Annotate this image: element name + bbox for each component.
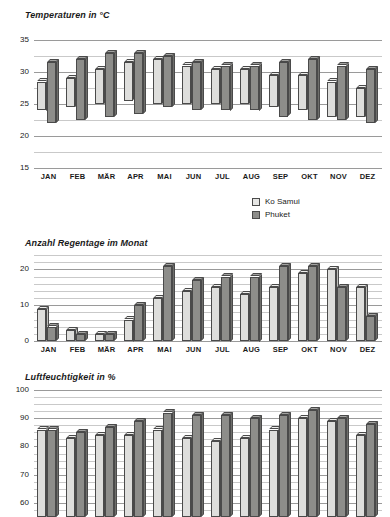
temperature-ytick: 30 bbox=[3, 67, 29, 76]
temperature-bar-ko-samui bbox=[269, 75, 278, 107]
humidity-title: Luftfeuchtigkeit in % bbox=[25, 372, 116, 382]
rain_days-bar-phuket bbox=[76, 334, 85, 341]
rain_days-bar-ko-samui bbox=[124, 320, 133, 342]
humidity-bar-phuket bbox=[105, 427, 114, 517]
rain_days-bar-phuket bbox=[192, 280, 201, 341]
rain_days-bar-ko-samui bbox=[269, 287, 278, 341]
rain_days-bar-phuket bbox=[105, 334, 114, 341]
humidity-bar-ko-samui bbox=[298, 418, 307, 517]
temperature-bar-ko-samui bbox=[153, 59, 162, 104]
rain_days-bar-phuket bbox=[134, 305, 143, 341]
humidity-bar-phuket bbox=[221, 415, 230, 517]
temperature-ytick: 25 bbox=[3, 99, 29, 108]
humidity-bar-phuket bbox=[337, 418, 346, 517]
humidity-bar-phuket bbox=[250, 418, 259, 517]
rain_days-bar-ko-samui bbox=[95, 334, 104, 341]
temperature-bar-phuket bbox=[308, 59, 317, 120]
gridline bbox=[34, 40, 382, 41]
humidity-bar-ko-samui bbox=[182, 438, 191, 517]
temperature-ytick: 15 bbox=[3, 163, 29, 172]
humidity-bar-ko-samui bbox=[124, 435, 133, 517]
humidity-ytick: 70 bbox=[3, 470, 29, 479]
rain_days-bar-phuket bbox=[308, 266, 317, 341]
rain_days-bar-ko-samui bbox=[182, 291, 191, 341]
temperature-bar-phuket bbox=[192, 62, 201, 110]
legend-swatch-phuket bbox=[252, 211, 260, 219]
rain_days-bar-ko-samui bbox=[153, 298, 162, 341]
legend-swatch-ko_samui bbox=[252, 198, 260, 206]
humidity-bar-phuket bbox=[366, 424, 375, 517]
temperature-bar-phuket bbox=[76, 59, 85, 120]
humidity-bar-phuket bbox=[47, 430, 56, 517]
legend-label-ko_samui: Ko Samui bbox=[265, 197, 300, 206]
rain_days-ytick: 10 bbox=[3, 300, 29, 309]
rain_days-bar-ko-samui bbox=[356, 287, 365, 341]
humidity-bar-ko-samui bbox=[327, 421, 336, 517]
temperature-title: Temperaturen in °C bbox=[25, 10, 110, 20]
temperature-bar-ko-samui bbox=[211, 69, 220, 104]
rain_days-bar-ko-samui bbox=[66, 330, 75, 341]
legend-item-phuket[interactable]: Phuket bbox=[252, 210, 290, 219]
humidity-bar-phuket bbox=[308, 410, 317, 517]
humidity-ytick: 60 bbox=[3, 498, 29, 507]
temperature-bar-phuket bbox=[221, 66, 230, 111]
humidity-bar-ko-samui bbox=[356, 435, 365, 517]
temperature-bar-phuket bbox=[337, 66, 346, 120]
humidity-bar-ko-samui bbox=[240, 438, 249, 517]
legend-label-phuket: Phuket bbox=[265, 210, 290, 219]
rain_days-bar-ko-samui bbox=[211, 287, 220, 341]
temperature-bar-ko-samui bbox=[327, 82, 336, 117]
humidity-bar-phuket bbox=[163, 413, 172, 517]
temperature-bar-phuket bbox=[279, 62, 288, 116]
rain_days-xlabel: DEZ bbox=[350, 345, 386, 354]
gridline bbox=[34, 136, 382, 137]
rain_days-bar-phuket bbox=[337, 287, 346, 341]
rain_days-bar-ko-samui bbox=[327, 269, 336, 341]
gridline bbox=[34, 341, 382, 342]
rain_days-ytick: 20 bbox=[3, 264, 29, 273]
temperature-bar-phuket bbox=[105, 53, 114, 117]
minor-gridline bbox=[34, 404, 382, 405]
minor-gridline bbox=[34, 255, 382, 256]
humidity-ytick: 90 bbox=[3, 413, 29, 422]
rain_days-title: Anzahl Regentage im Monat bbox=[25, 238, 148, 248]
temperature-bar-ko-samui bbox=[298, 75, 307, 110]
minor-gridline bbox=[34, 262, 382, 263]
rain_days-ytick: 0 bbox=[3, 336, 29, 345]
humidity-bar-ko-samui bbox=[66, 438, 75, 517]
temperature-bar-phuket bbox=[250, 66, 259, 111]
humidity-ytick: 80 bbox=[3, 441, 29, 450]
rain_days-bar-phuket bbox=[279, 266, 288, 341]
temperature-xlabel: DEZ bbox=[350, 172, 386, 181]
temperature-bar-phuket bbox=[47, 62, 56, 123]
humidity-bar-phuket bbox=[76, 432, 85, 517]
minor-gridline bbox=[34, 411, 382, 412]
temperature-ytick: 20 bbox=[3, 131, 29, 140]
temperature-bar-phuket bbox=[366, 69, 375, 123]
humidity-bar-phuket bbox=[134, 421, 143, 517]
rain_days-bar-phuket bbox=[163, 266, 172, 341]
humidity-bar-ko-samui bbox=[37, 430, 46, 517]
rain_days-bar-ko-samui bbox=[240, 294, 249, 341]
temperature-bar-ko-samui bbox=[95, 69, 104, 104]
temperature-bar-ko-samui bbox=[66, 78, 75, 107]
gridline bbox=[34, 168, 382, 169]
rain_days-bar-ko-samui bbox=[298, 273, 307, 341]
temperature-bar-phuket bbox=[163, 56, 172, 107]
temperature-bar-ko-samui bbox=[356, 88, 365, 117]
rain_days-bar-phuket bbox=[366, 316, 375, 341]
minor-gridline bbox=[34, 120, 382, 121]
temperature-ytick: 35 bbox=[3, 35, 29, 44]
humidity-bar-phuket bbox=[279, 415, 288, 517]
temperature-bar-ko-samui bbox=[37, 82, 46, 111]
humidity-ytick: 100 bbox=[3, 385, 29, 394]
minor-gridline bbox=[34, 397, 382, 398]
temperature-bar-ko-samui bbox=[124, 62, 133, 100]
rain_days-bar-ko-samui bbox=[37, 309, 46, 341]
humidity-bar-ko-samui bbox=[269, 430, 278, 517]
temperature-bar-ko-samui bbox=[240, 69, 249, 104]
humidity-bar-phuket bbox=[192, 415, 201, 517]
temperature-bar-phuket bbox=[134, 53, 143, 114]
humidity-bar-ko-samui bbox=[95, 435, 104, 517]
legend-item-ko_samui[interactable]: Ko Samui bbox=[252, 197, 300, 206]
